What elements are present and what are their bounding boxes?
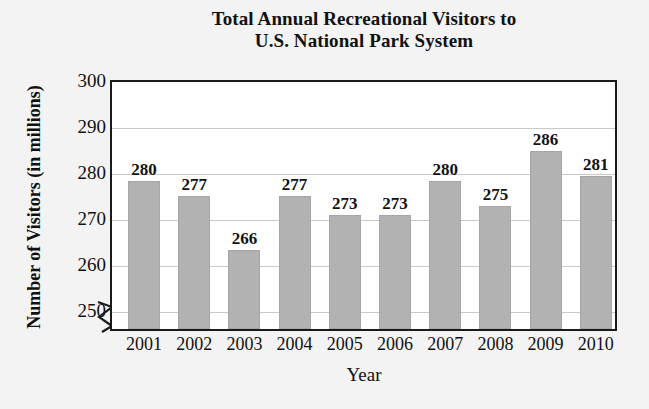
bar-2009 [530,151,562,329]
bar-value-label-2003: 266 [218,229,270,249]
y-axis-title: Number of Visitors (in millions) [21,72,47,342]
x-tick-label-2009: 2009 [520,334,572,355]
bar-2001 [128,181,160,329]
bar-value-label-2008: 275 [469,185,521,205]
x-tick-label-2008: 2008 [469,334,521,355]
y-tick-label-270: 270 [60,209,106,228]
x-tick-label-2003: 2003 [218,334,270,355]
y-tick-label-290: 290 [60,117,106,136]
y-tick-label-300: 300 [60,71,106,90]
chart-title-line-2: U.S. National Park System [110,30,618,52]
bar-value-label-2005: 273 [319,194,371,214]
y-axis-tick-labels: 300 290 280 270 260 250 [56,0,106,409]
bar-2005 [329,215,361,329]
x-tick-label-2010: 2010 [570,334,622,355]
chart-title: Total Annual Recreational Visitors to U.… [110,8,618,52]
x-tick-label-2006: 2006 [369,334,421,355]
bar-value-label-2010: 281 [570,155,622,175]
bar-2004 [279,196,311,329]
y-tick-label-260: 260 [60,255,106,274]
x-axis-title: Year [110,364,618,386]
bar-2007 [429,181,461,329]
x-tick-label-2002: 2002 [168,334,220,355]
chart-title-line-1: Total Annual Recreational Visitors to [110,8,618,30]
bar-value-label-2004: 277 [269,175,321,195]
x-tick-label-2005: 2005 [319,334,371,355]
bar-value-label-2009: 286 [520,130,572,150]
bar-value-label-2006: 273 [369,194,421,214]
y-tick-label-280: 280 [60,163,106,182]
bar-2010 [580,176,612,329]
bar-value-label-2002: 277 [168,175,220,195]
x-tick-label-2007: 2007 [419,334,471,355]
bar-2002 [178,196,210,329]
x-tick-label-2001: 2001 [118,334,170,355]
bar-value-label-2007: 280 [419,160,471,180]
bar-chart-figure: Total Annual Recreational Visitors to U.… [0,0,649,409]
bar-2003 [228,250,260,329]
x-tick-label-2004: 2004 [269,334,321,355]
bar-2008 [479,206,511,330]
bar-2006 [379,215,411,329]
bar-value-label-2001: 280 [118,160,170,180]
